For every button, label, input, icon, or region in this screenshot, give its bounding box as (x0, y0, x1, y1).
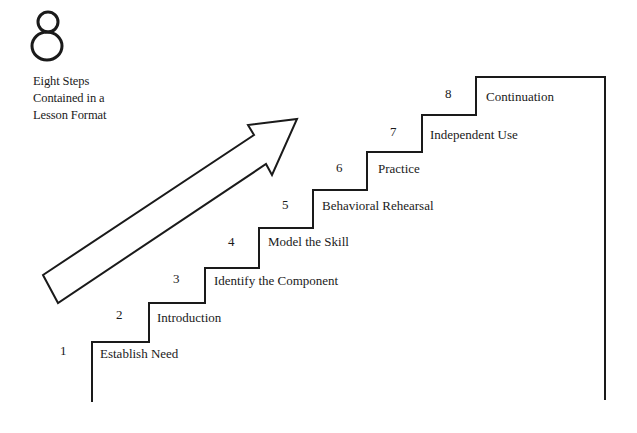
step-number-7: 7 (390, 125, 397, 139)
step-label-7: Independent Use (430, 128, 518, 142)
step-label-2: Introduction (157, 311, 221, 325)
step-number-2: 2 (116, 308, 123, 322)
staircase-lines (0, 0, 637, 433)
step-label-5: Behavioral Rehearsal (322, 199, 434, 213)
staircase-diagram: Eight Steps Contained in a Lesson Format… (0, 0, 637, 433)
step-number-8: 8 (445, 87, 452, 101)
step-number-4: 4 (228, 235, 235, 249)
step-label-3: Identify the Component (214, 274, 338, 288)
step-label-6: Practice (378, 162, 420, 176)
step-label-1: Establish Need (100, 347, 178, 361)
step-number-3: 3 (173, 272, 180, 286)
step-number-5: 5 (282, 198, 289, 212)
step-number-1: 1 (60, 344, 67, 358)
step-number-6: 6 (336, 161, 343, 175)
step-label-8: Continuation (486, 90, 554, 104)
step-label-4: Model the Skill (268, 235, 349, 249)
